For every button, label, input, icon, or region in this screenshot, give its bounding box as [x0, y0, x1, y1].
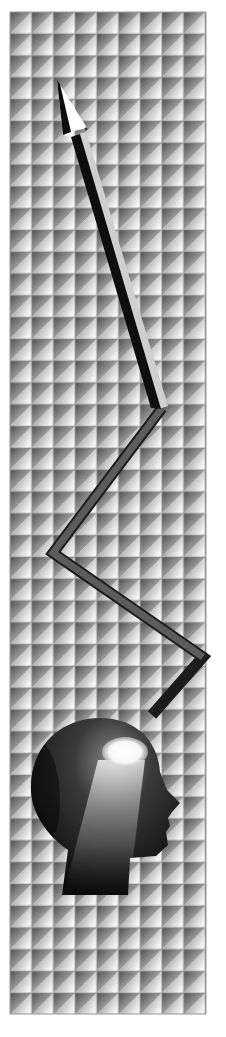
- light-glow-icon: [102, 737, 148, 767]
- illustration-canvas: [0, 0, 226, 1037]
